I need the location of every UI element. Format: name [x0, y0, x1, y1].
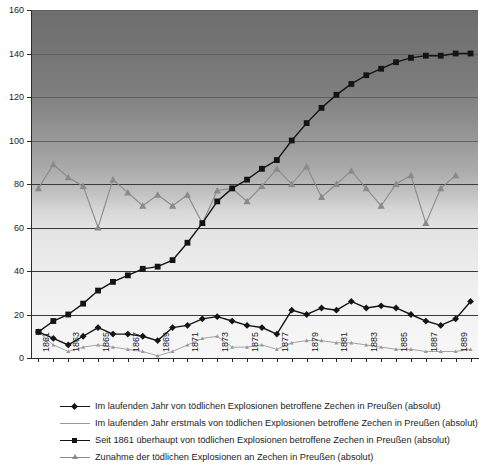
data-point-square: [259, 166, 265, 172]
legend-marker-square-icon: [60, 435, 90, 446]
legend-label: Seit 1861 überhaupt von tödlichen Explos…: [95, 435, 450, 446]
x-tick: [143, 358, 144, 362]
x-tick-label: 1887: [430, 332, 439, 362]
series-3: [36, 51, 474, 335]
data-point-diamond: [259, 324, 266, 331]
legend-label: Im laufenden Jahr von tödlichen Explosio…: [95, 401, 441, 412]
data-point-triangle: [348, 167, 355, 173]
y-tick-label: 60: [0, 224, 24, 233]
y-tick-label: 100: [0, 137, 24, 146]
legend-label: Im laufenden Jahr erstmals von tödlichen…: [95, 418, 478, 429]
x-tick: [351, 358, 352, 362]
series-line: [38, 164, 455, 227]
x-tick: [277, 358, 278, 362]
x-tick-label: 1883: [370, 332, 379, 362]
data-point-square: [140, 266, 146, 272]
x-tick: [98, 358, 99, 362]
data-point-diamond: [303, 311, 310, 318]
data-point-square: [453, 51, 459, 57]
x-tick-label: 1865: [102, 332, 111, 362]
y-tick-label: 0: [0, 354, 24, 363]
x-tick: [83, 358, 84, 362]
data-point-diamond: [422, 318, 429, 325]
x-tick-label: 1871: [191, 332, 200, 362]
plot-area: [31, 10, 478, 358]
data-point-square: [289, 138, 295, 144]
x-tick-label: 1863: [72, 332, 81, 362]
x-tick: [53, 358, 54, 362]
x-tick: [68, 358, 69, 362]
y-tick-0: [27, 358, 32, 359]
x-tick-label: 1885: [400, 332, 409, 362]
chart-legend: Im laufenden Jahr von tödlichen Explosio…: [0, 398, 485, 466]
data-point-triangle: [452, 172, 459, 178]
data-point-square: [110, 279, 116, 285]
x-tick: [322, 358, 323, 362]
x-tick: [381, 358, 382, 362]
data-point-triangle: [94, 224, 101, 230]
data-point-diamond: [378, 302, 385, 309]
legend-marker-glyph: [72, 454, 78, 459]
legend-entry-4[interactable]: Zunahme der tödlichen Explosionen an Zec…: [0, 449, 485, 466]
x-tick: [307, 358, 308, 362]
x-tick: [336, 358, 337, 362]
series-line: [38, 54, 470, 332]
data-point-square: [334, 92, 340, 98]
data-point-square: [185, 240, 191, 246]
data-point-diamond: [348, 298, 355, 305]
legend-line: [60, 423, 90, 424]
data-point-square: [393, 59, 399, 65]
x-tick: [426, 358, 427, 362]
data-point-triangle: [169, 202, 176, 208]
series-4: [35, 161, 459, 231]
y-tick-label: 20: [0, 311, 24, 320]
x-tick: [441, 358, 442, 362]
data-point-square: [468, 51, 474, 57]
data-point-triangle: [422, 220, 429, 226]
data-point-diamond: [363, 305, 370, 312]
data-point-triangle: [303, 163, 310, 169]
data-point-diamond: [333, 307, 340, 314]
x-tick: [456, 358, 457, 362]
data-point-square: [304, 120, 310, 126]
data-point-triangle: [109, 176, 116, 182]
data-point-triangle: [184, 191, 191, 197]
data-point-square: [378, 66, 384, 72]
x-tick: [158, 358, 159, 362]
x-tick: [232, 358, 233, 362]
data-point-diamond: [437, 322, 444, 329]
data-point-triangle: [392, 180, 399, 186]
x-tick: [396, 358, 397, 362]
y-tick-label: 80: [0, 180, 24, 189]
data-point-square: [95, 288, 101, 294]
data-point-square: [170, 257, 176, 263]
legend-entry-3[interactable]: Seit 1861 überhaupt von tödlichen Explos…: [0, 432, 485, 449]
legend-entry-2[interactable]: Im laufenden Jahr erstmals von tödlichen…: [0, 415, 485, 432]
data-point-square: [80, 301, 86, 307]
x-tick-label: 1875: [251, 332, 260, 362]
y-tick-label: 160: [0, 6, 24, 15]
legend-marker-glyph: [71, 403, 78, 410]
legend-entry-1[interactable]: Im laufenden Jahr von tödlichen Explosio…: [0, 398, 485, 415]
x-tick: [202, 358, 203, 362]
legend-marker-glyph: [72, 438, 77, 443]
x-tick: [366, 358, 367, 362]
y-tick-label: 40: [0, 267, 24, 276]
x-tick-label: 1879: [311, 332, 320, 362]
x-tick-label: 1869: [162, 332, 171, 362]
x-tick: [262, 358, 263, 362]
x-tick: [471, 358, 472, 362]
legend-label: Zunahme der tödlichen Explosionen an Zec…: [95, 452, 373, 463]
data-point-square: [155, 264, 161, 270]
x-tick: [247, 358, 248, 362]
data-point-diamond: [288, 307, 295, 314]
data-point-square: [363, 72, 369, 78]
data-point-square: [319, 105, 325, 111]
x-tick-label: 1881: [340, 332, 349, 362]
data-point-diamond: [318, 305, 325, 312]
data-point-diamond: [184, 322, 191, 329]
y-tick-label: 140: [0, 50, 24, 59]
data-point-triangle: [80, 183, 87, 189]
series-layer: [31, 10, 478, 358]
